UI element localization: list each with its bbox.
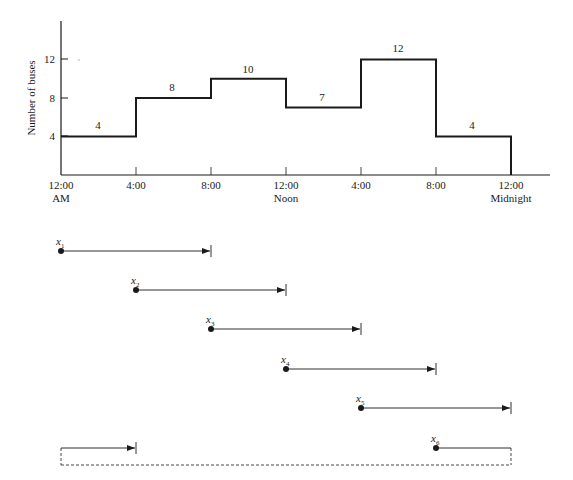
y-ticks: 4 8 12 bbox=[44, 53, 68, 142]
y-tick-label: 4 bbox=[50, 130, 56, 142]
bus-schedule-figure: 4 8 12 Number of buses 12:00 AM 4:00 8:0… bbox=[0, 0, 573, 480]
step-line bbox=[61, 60, 511, 176]
y-tick-label: 8 bbox=[50, 92, 56, 104]
shift-diagram: x1 x2 x3 x4 x5 bbox=[55, 235, 511, 465]
x-tick-label: 12:00 bbox=[273, 179, 299, 191]
shift-x5: x5 bbox=[355, 392, 511, 414]
x-tick-label: 12:00 bbox=[498, 179, 524, 191]
shift-label: x3 bbox=[205, 313, 215, 328]
x-tick-label: Noon bbox=[274, 192, 299, 204]
x-tick-label: AM bbox=[52, 192, 70, 204]
x-tick-label: Midnight bbox=[491, 192, 532, 204]
shift-label: x6 bbox=[430, 432, 440, 447]
step-label: 7 bbox=[319, 91, 325, 103]
shift-x6: x6 bbox=[61, 432, 511, 465]
x-tick-labels: 12:00 AM 4:00 8:00 12:00 Noon 4:00 8:00 … bbox=[48, 179, 531, 204]
shift-label: x2 bbox=[130, 274, 140, 289]
x-tick-label: 8:00 bbox=[201, 179, 221, 191]
shift-x3: x3 bbox=[205, 313, 361, 335]
shift-label: x4 bbox=[280, 353, 290, 368]
step-label: 12 bbox=[393, 42, 404, 54]
shift-label: x5 bbox=[355, 392, 365, 407]
step-label: 8 bbox=[169, 81, 175, 93]
x-tick-label: 8:00 bbox=[426, 179, 446, 191]
x-tick-label: 12:00 bbox=[48, 179, 74, 191]
shift-x1: x1 bbox=[55, 235, 211, 257]
y-axis-label: Number of buses bbox=[25, 60, 37, 135]
x-tick-label: 4:00 bbox=[351, 179, 371, 191]
x-ticks bbox=[136, 167, 436, 175]
shift-x4: x4 bbox=[280, 353, 436, 375]
step-label: 10 bbox=[243, 63, 255, 75]
step-chart: 4 8 12 Number of buses 12:00 AM 4:00 8:0… bbox=[25, 21, 550, 204]
x-tick-label: 4:00 bbox=[126, 179, 146, 191]
y-tick-label: 12 bbox=[44, 53, 55, 65]
step-label: 4 bbox=[95, 119, 101, 131]
shift-label: x1 bbox=[55, 235, 65, 250]
step-label: 4 bbox=[469, 119, 475, 131]
shift-x2: x2 bbox=[130, 274, 286, 296]
